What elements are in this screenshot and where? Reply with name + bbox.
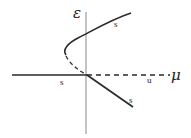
lower-branch-stability-label: s [129,96,133,105]
left-branch-stability-label: s [60,78,64,87]
upper-branch-stability-label: s [114,20,118,29]
mu-axis-label: μ [171,68,181,83]
right-branch-stability-label: u [147,76,152,85]
bifurcation-diagram [0,0,191,138]
unstable-fold-branch [66,56,87,75]
lower-stable-branch [87,75,133,107]
epsilon-axis-label: ε [73,6,81,21]
